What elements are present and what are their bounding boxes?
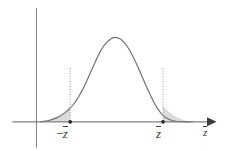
neg-critical-axis-marker bbox=[68, 120, 72, 124]
normal-curve bbox=[41, 37, 193, 121]
distribution-plot bbox=[0, 0, 228, 151]
x-axis-arrowhead-icon bbox=[207, 117, 217, 126]
left-tail-shaded-region bbox=[41, 106, 71, 122]
pos-critical-axis-marker bbox=[161, 120, 165, 124]
right-tail-shaded-region bbox=[163, 106, 193, 122]
normal-distribution-figure: −z z z bbox=[0, 0, 228, 151]
